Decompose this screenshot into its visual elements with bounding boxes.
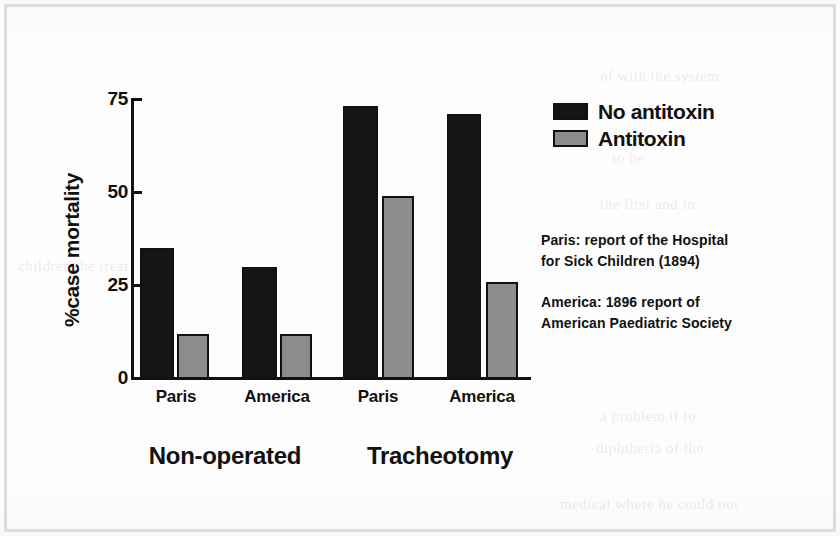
y-tick-75 [133, 98, 142, 101]
y-tick-50 [133, 191, 142, 194]
bar-antitoxin-nonoperated-paris [177, 334, 209, 379]
legend-swatch-antitoxin-icon [553, 130, 588, 147]
legend-swatch-no-antitoxin-icon [553, 103, 588, 120]
bar-no-antitoxin-nonoperated-paris [140, 248, 174, 379]
source-note-america-line-1: America: 1896 report of [541, 292, 831, 313]
y-axis-title: %case mortality [60, 150, 84, 350]
x-category-label-tracheotomy-paris: Paris [330, 387, 426, 407]
legend-label-no-antitoxin: No antitoxin [598, 100, 715, 124]
x-category-label-nonoperated-america: America [229, 387, 325, 407]
y-axis-line [131, 98, 134, 379]
x-category-label-tracheotomy-america: America [434, 387, 530, 407]
source-note-paris-line-1: Paris: report of the Hospital [541, 230, 831, 251]
source-note-paris: Paris: report of the Hospital for Sick C… [541, 230, 831, 272]
source-note-america-line-2: American Paediatric Society [541, 313, 831, 334]
y-tick-label-50: 50 [88, 181, 128, 203]
y-tick-label-25: 25 [88, 274, 128, 296]
bar-no-antitoxin-nonoperated-america [242, 267, 277, 379]
x-group-label-nonoperated: Non-operated [125, 442, 325, 470]
chart-screenshot: of with the system to be the first and i… [0, 0, 840, 536]
bar-no-antitoxin-tracheotomy-paris [343, 106, 378, 379]
chart-legend: No antitoxin Antitoxin [553, 98, 715, 152]
bar-antitoxin-nonoperated-america [280, 334, 312, 379]
y-tick-label-75: 75 [88, 88, 128, 110]
bar-antitoxin-tracheotomy-paris [382, 196, 414, 379]
source-note-paris-line-2: for Sick Children (1894) [541, 251, 831, 272]
source-note-america: America: 1896 report of American Paediat… [541, 292, 831, 334]
bar-no-antitoxin-tracheotomy-america [447, 114, 481, 379]
bar-antitoxin-tracheotomy-america [486, 282, 518, 379]
y-tick-label-0: 0 [88, 367, 128, 389]
x-category-label-nonoperated-paris: Paris [128, 387, 224, 407]
legend-item-no-antitoxin: No antitoxin [553, 98, 715, 125]
x-group-label-tracheotomy: Tracheotomy [340, 442, 540, 470]
legend-item-antitoxin: Antitoxin [553, 125, 715, 152]
legend-label-antitoxin: Antitoxin [598, 127, 685, 151]
source-notes: Paris: report of the Hospital for Sick C… [541, 230, 831, 354]
